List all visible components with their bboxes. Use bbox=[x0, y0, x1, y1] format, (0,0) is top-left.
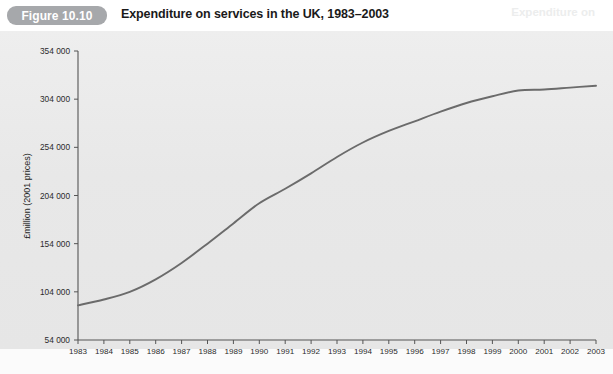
y-tick-label: 304 000 bbox=[40, 94, 70, 104]
y-tick-label: 54 000 bbox=[45, 335, 71, 345]
figure-title: Expenditure on services in the UK, 1983–… bbox=[121, 7, 389, 21]
x-tick-label: 1989 bbox=[224, 347, 243, 356]
data-series-line bbox=[78, 86, 596, 306]
figure-number-badge: Figure 10.10 bbox=[7, 6, 107, 25]
x-tick-label: 1998 bbox=[457, 347, 476, 356]
bleed-through-text: Expenditure on bbox=[511, 6, 595, 18]
x-tick-label: 1990 bbox=[250, 347, 269, 356]
y-tick-label: 104 000 bbox=[40, 287, 70, 297]
y-tick-label: 204 000 bbox=[40, 191, 70, 201]
y-tick-label: 154 000 bbox=[40, 239, 70, 249]
line-chart: 54 000104 000154 000204 000254 000304 00… bbox=[0, 31, 613, 374]
y-axis-title: £million (2001 prices) bbox=[22, 153, 32, 239]
figure-header: Figure 10.10 Expenditure on services in … bbox=[0, 0, 613, 31]
x-tick-label: 2003 bbox=[587, 347, 606, 356]
y-tick-label: 254 000 bbox=[40, 142, 70, 152]
x-axis-ticks: 1983198419851986198719881989199019911992… bbox=[69, 340, 606, 356]
x-tick-label: 1991 bbox=[276, 347, 295, 356]
x-tick-label: 2001 bbox=[535, 347, 554, 356]
x-tick-label: 2002 bbox=[561, 347, 580, 356]
x-tick-label: 1994 bbox=[354, 347, 373, 356]
x-tick-label: 1995 bbox=[380, 347, 399, 356]
x-tick-label: 1999 bbox=[483, 347, 502, 356]
y-tick-label: 354 000 bbox=[40, 46, 70, 56]
x-tick-label: 1993 bbox=[328, 347, 347, 356]
x-tick-label: 2000 bbox=[509, 347, 528, 356]
x-tick-label: 1983 bbox=[69, 347, 88, 356]
x-tick-label: 1992 bbox=[302, 347, 321, 356]
y-axis-ticks: 54 000104 000154 000204 000254 000304 00… bbox=[40, 46, 78, 345]
x-tick-label: 1996 bbox=[406, 347, 425, 356]
x-tick-label: 1984 bbox=[95, 347, 114, 356]
chart-panel: 54 000104 000154 000204 000254 000304 00… bbox=[0, 31, 613, 374]
x-tick-label: 1986 bbox=[147, 347, 166, 356]
x-tick-label: 1985 bbox=[121, 347, 140, 356]
x-tick-label: 1997 bbox=[432, 347, 451, 356]
x-tick-label: 1987 bbox=[173, 347, 192, 356]
x-tick-label: 1988 bbox=[198, 347, 217, 356]
